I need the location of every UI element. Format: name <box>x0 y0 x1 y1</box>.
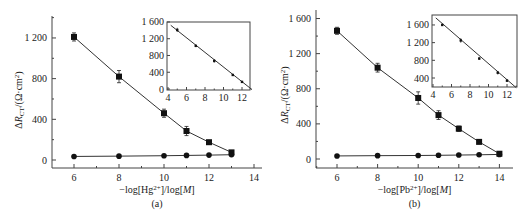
circle-marker <box>415 153 421 159</box>
svg-text:ΔRCT/(Ω·cm2): ΔRCT/(Ω·cm2) <box>279 66 292 123</box>
x-axis-label: −log[Pb2+]/log[M] <box>378 184 452 195</box>
square-marker <box>375 65 381 71</box>
x-tick-label: 12 <box>454 172 464 183</box>
inset-marker <box>506 79 508 81</box>
inset-marker <box>460 39 462 41</box>
inset-x-tick-label: 6 <box>449 89 454 100</box>
x-tick-label: 10 <box>413 172 423 183</box>
square-marker <box>415 95 421 101</box>
x-tick-label: 6 <box>335 172 340 183</box>
inset-x-tick-label: 8 <box>468 89 473 100</box>
y-tick-label: 400 <box>296 118 311 129</box>
figure: 6810121404008001 200ΔRCT/(Ω·cm2)−log[Hg2… <box>0 0 529 222</box>
y-tick-label: 0 <box>306 154 311 165</box>
circle-marker <box>436 153 442 159</box>
inset-y-tick-label: 800 <box>414 55 429 66</box>
y-tick-label: 1 200 <box>289 48 312 59</box>
inset-x-tick-label: 12 <box>502 89 512 100</box>
square-marker <box>436 112 442 118</box>
square-marker <box>476 139 482 145</box>
inset-marker <box>441 24 443 26</box>
y-tick-label: 1 600 <box>289 13 312 24</box>
x-tick-label: 14 <box>494 172 504 183</box>
inset-y-tick-label: 1 600 <box>407 19 430 30</box>
panel-label: (b) <box>409 198 421 210</box>
y-axis-label: ΔRCT/(Ω·cm2) <box>279 66 292 123</box>
circle-marker <box>375 153 381 159</box>
circle-marker <box>456 152 462 158</box>
circle-marker <box>497 152 503 158</box>
chart-panel-b: 6810121404008001 2001 600ΔRCT/(Ω·cm2)−lo… <box>0 0 529 222</box>
circle-marker <box>476 152 482 158</box>
square-marker <box>456 126 462 132</box>
square-marker <box>334 28 340 34</box>
inset-y-tick-label: 1 200 <box>407 37 430 48</box>
inset-marker <box>478 57 480 59</box>
inset-x-tick-label: 4 <box>431 89 436 100</box>
x-tick-label: 8 <box>375 172 380 183</box>
circle-marker <box>334 153 340 159</box>
inset-x-tick-label: 10 <box>484 89 494 100</box>
inset-marker <box>497 71 499 73</box>
inset-y-tick-label: 400 <box>414 73 429 84</box>
y-tick-label: 800 <box>296 83 311 94</box>
